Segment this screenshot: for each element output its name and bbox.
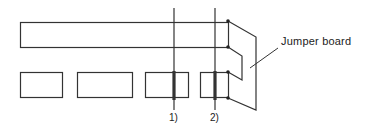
connection-dot-4 — [226, 96, 230, 100]
jumper-board-diagram — [0, 0, 366, 133]
top-bar — [21, 23, 229, 48]
jumper-inner-wire — [228, 47, 242, 80]
bottom-block-1 — [21, 73, 63, 98]
bottom-block-2 — [78, 73, 133, 98]
connection-dot-2 — [226, 45, 230, 49]
connection-dot-1 — [226, 19, 230, 23]
cut-label-1: 1) — [169, 112, 178, 123]
jumper-board-label: Jumper board — [281, 35, 351, 47]
jumper-leader-line — [250, 48, 278, 68]
cut-label-2: 2) — [210, 112, 219, 123]
connection-dot-3 — [226, 70, 230, 74]
bottom-block-3 — [146, 73, 189, 98]
